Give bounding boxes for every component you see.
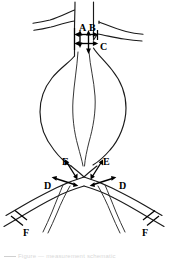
- lumen-left-edge: [73, 52, 83, 166]
- label-f-right: F: [142, 228, 148, 238]
- label-d-left: D: [44, 181, 51, 191]
- right-iliac-inferior-wall: [84, 186, 164, 227]
- aneurysm-lumen-channel: [73, 52, 95, 166]
- right-internal-iliac-branch-outer: [105, 185, 125, 232]
- right-internal-iliac-branch-inner: [98, 186, 120, 233]
- caption-text: Figure — measurement schematic: [18, 253, 116, 259]
- left-renal-superior-wall: [33, 10, 75, 23]
- label-d-right: D: [119, 181, 126, 191]
- aneurysm-sac: [40, 48, 126, 166]
- caption-rule: [4, 256, 16, 257]
- left-internal-iliac-branch-outer: [43, 185, 63, 232]
- left-internal-iliac-branch-inner: [48, 186, 70, 233]
- sac-left-wall: [40, 56, 75, 166]
- measure-d-right-head-inner: [90, 182, 95, 187]
- measure-b-head-bottom: [86, 49, 91, 54]
- label-a: A: [79, 23, 86, 33]
- label-b: B: [89, 23, 96, 33]
- label-e-right: E: [103, 157, 110, 167]
- label-e-left: E: [62, 157, 69, 167]
- measure-d-right-head-outer: [111, 176, 116, 181]
- label-c: C: [100, 42, 107, 52]
- aaa-diagram-figure: A B C D D E E F F Figure — measurement s…: [0, 0, 170, 260]
- measure-d-left-head-outer: [52, 176, 57, 181]
- measure-arrow-d-left: [52, 176, 79, 187]
- measure-c-lower-head-right: [93, 41, 98, 46]
- right-renal-inferior-wall: [98, 34, 143, 41]
- right-renal-artery: [98, 22, 144, 41]
- lumen-right-edge: [85, 52, 96, 166]
- measure-arrow-b: [86, 30, 91, 54]
- cropped-caption: Figure — measurement schematic: [0, 252, 170, 260]
- vessel-illustration: [0, 0, 170, 260]
- label-f-left: F: [23, 228, 29, 238]
- sac-right-wall: [93, 48, 126, 165]
- measure-d-left-head-inner: [73, 182, 78, 187]
- right-renal-superior-wall: [99, 22, 143, 34]
- left-renal-artery: [33, 10, 75, 30]
- measure-arrow-d-right: [90, 176, 117, 187]
